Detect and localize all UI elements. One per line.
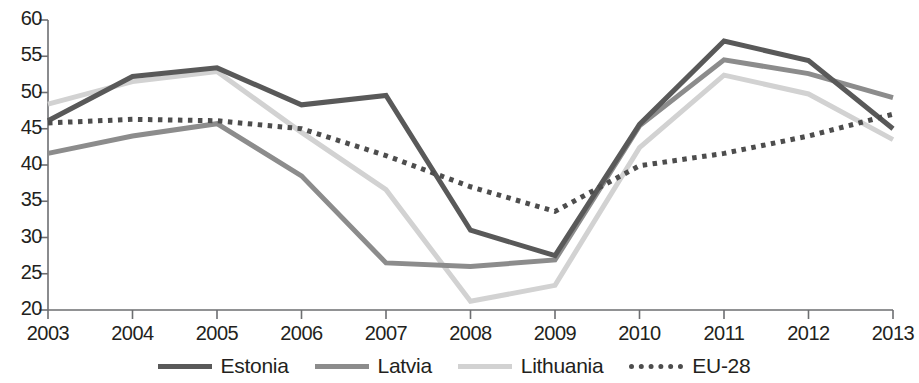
legend-item-lithuania[interactable]: Lithuania <box>458 354 604 378</box>
chart-legend: EstoniaLatviaLithuaniaEU-28 <box>0 349 908 383</box>
x-axis-tick-label: 2004 <box>88 322 178 345</box>
legend-item-label: EU-28 <box>692 354 750 378</box>
x-axis-tick-label: 2013 <box>848 322 919 345</box>
x-axis-ticks <box>48 310 893 319</box>
chart-series-layer <box>48 41 893 301</box>
legend-swatch-icon <box>629 364 683 369</box>
legend-item-label: Latvia <box>378 354 432 378</box>
y-axis-tick-label: 40 <box>0 152 42 175</box>
y-axis-tick-label: 55 <box>0 43 42 66</box>
x-axis-tick-label: 2011 <box>679 322 769 345</box>
legend-item-label: Lithuania <box>521 354 604 378</box>
y-axis-tick-label: 30 <box>0 225 42 248</box>
x-axis-tick-label: 2005 <box>172 322 262 345</box>
x-axis-tick-label: 2008 <box>426 322 516 345</box>
x-axis-tick-label: 2012 <box>764 322 854 345</box>
legend-swatch-icon <box>158 364 212 369</box>
x-axis-tick-label: 2010 <box>595 322 685 345</box>
legend-item-eu-28[interactable]: EU-28 <box>629 354 750 378</box>
legend-item-estonia[interactable]: Estonia <box>158 354 289 378</box>
y-axis-tick-label: 25 <box>0 261 42 284</box>
y-axis-tick-label: 60 <box>0 7 42 30</box>
y-axis-tick-label: 20 <box>0 297 42 320</box>
legend-item-label: Estonia <box>221 354 289 378</box>
x-axis-tick-label: 2006 <box>257 322 347 345</box>
legend-item-latvia[interactable]: Latvia <box>315 354 432 378</box>
series-line-estonia <box>48 41 893 256</box>
legend-swatch-icon <box>315 364 369 369</box>
legend-swatch-icon <box>458 364 512 369</box>
y-axis-tick-label: 45 <box>0 116 42 139</box>
x-axis-tick-label: 2009 <box>510 322 600 345</box>
series-line-latvia <box>48 60 893 267</box>
x-axis-tick-label: 2003 <box>3 322 93 345</box>
y-axis-tick-label: 50 <box>0 80 42 103</box>
x-axis-tick-label: 2007 <box>341 322 431 345</box>
y-axis-tick-label: 35 <box>0 188 42 211</box>
